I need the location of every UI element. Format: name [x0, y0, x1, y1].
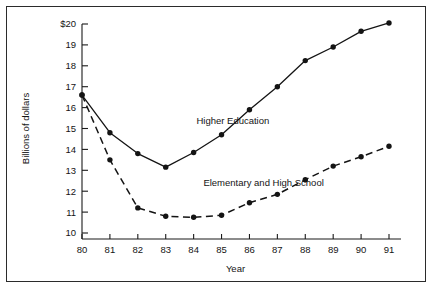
data-point-marker: [330, 44, 335, 49]
data-point-marker: [386, 20, 391, 25]
data-point-marker: [247, 107, 252, 112]
data-point-marker: [163, 164, 168, 169]
x-tick-label: 87: [272, 244, 283, 255]
series-label-higher-education: Higher Education: [196, 115, 269, 126]
data-point-marker: [303, 58, 308, 63]
x-tick-label: 90: [356, 244, 367, 255]
data-point-marker: [275, 84, 280, 89]
data-point-marker: [107, 157, 112, 162]
data-point-marker: [219, 132, 224, 137]
y-tick-label: 11: [66, 207, 76, 218]
x-tick-label: 89: [328, 244, 339, 255]
y-tick-label: 17: [65, 81, 76, 92]
y-axis-title: Billions of dollars: [20, 93, 31, 165]
data-point-marker: [163, 214, 168, 219]
data-point-marker: [330, 163, 335, 168]
data-point-marker: [107, 130, 112, 135]
chart-frame: $2019181716151413121110 8081828384858687…: [6, 6, 426, 282]
x-axis-title: Year: [226, 263, 245, 274]
data-point-marker: [191, 150, 196, 155]
y-tick-label: 15: [65, 123, 76, 134]
data-point-marker: [247, 200, 252, 205]
y-tick-label: 18: [65, 60, 76, 71]
y-tick-label: 16: [65, 102, 76, 113]
series-label-elementary-and-high-school: Elementary and High School: [203, 177, 323, 188]
data-point-marker: [275, 192, 280, 197]
x-axis-tick-labels: 808182838485868788899091: [77, 244, 395, 255]
y-tick-label: $20: [60, 18, 76, 29]
data-point-marker: [219, 213, 224, 218]
line-chart: $2019181716151413121110 8081828384858687…: [7, 7, 425, 281]
data-point-marker: [79, 92, 84, 97]
data-point-marker: [386, 144, 391, 149]
series-line-higher-education: [82, 23, 389, 167]
x-tick-label: 81: [105, 244, 116, 255]
x-tick-label: 88: [300, 244, 311, 255]
series-markers-elementary-and-high-school: [79, 92, 391, 220]
x-tick-label: 91: [384, 244, 395, 255]
y-tick-label: 10: [65, 227, 76, 238]
x-tick-label: 82: [133, 244, 144, 255]
series-markers-higher-education: [79, 20, 391, 170]
y-tick-label: 14: [65, 144, 76, 155]
data-point-marker: [135, 205, 140, 210]
data-point-marker: [135, 151, 140, 156]
y-axis-tick-labels: $2019181716151413121110: [60, 18, 76, 238]
x-tick-label: 83: [160, 244, 171, 255]
y-axis-ticks: [82, 24, 88, 233]
y-tick-label: 13: [65, 165, 76, 176]
x-tick-label: 84: [188, 244, 199, 255]
x-tick-label: 85: [216, 244, 227, 255]
data-point-marker: [191, 215, 196, 220]
y-tick-label: 12: [65, 186, 76, 197]
x-axis-ticks: [82, 234, 389, 239]
data-point-marker: [358, 154, 363, 159]
data-point-marker: [358, 29, 363, 34]
series-line-elementary-and-high-school: [82, 95, 389, 217]
x-tick-label: 86: [244, 244, 255, 255]
y-tick-label: 19: [65, 39, 76, 50]
x-tick-label: 80: [77, 244, 88, 255]
